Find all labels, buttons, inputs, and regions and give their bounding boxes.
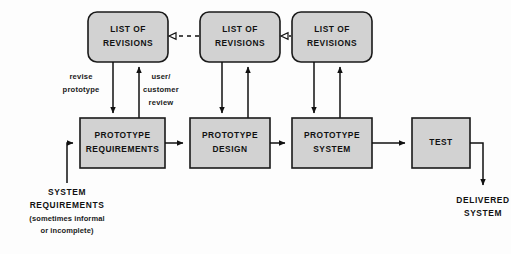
prototype-design-line2: DESIGN <box>212 144 247 154</box>
system-requirements-line4: or incomplete) <box>40 226 93 235</box>
node-prototype-design: PROTOTYPE DESIGN <box>190 118 270 168</box>
revisions-3-line2: REVISIONS <box>307 38 357 48</box>
annotation-delivered-system: DELIVERED SYSTEM <box>456 195 509 218</box>
arrow-delivered-system-output <box>470 143 483 185</box>
prototyping-flow-diagram: LIST OF REVISIONS LIST OF REVISIONS LIST… <box>0 0 511 254</box>
prototype-requirements-line1: PROTOTYPE <box>94 130 150 140</box>
revise-label-line2: prototype <box>63 85 100 94</box>
revisions-1-line2: REVISIONS <box>103 38 153 48</box>
diagram-canvas: LIST OF REVISIONS LIST OF REVISIONS LIST… <box>0 0 511 254</box>
annotation-system-requirements: SYSTEM REQUIREMENTS (sometimes informal … <box>29 187 104 235</box>
delivered-system-line1: DELIVERED <box>456 195 509 205</box>
review-label-line1: user/ <box>151 72 171 81</box>
system-requirements-line2: REQUIREMENTS <box>30 200 105 210</box>
node-revisions-3: LIST OF REVISIONS <box>292 12 372 62</box>
revise-label-line1: revise <box>69 72 92 81</box>
system-requirements-line1: SYSTEM <box>48 187 86 197</box>
dashed-arrow-revisions-3-to-2 <box>281 33 291 40</box>
edge-label-revise-prototype: revise prototype <box>63 72 100 94</box>
revisions-3-line1: LIST OF <box>314 24 350 34</box>
arrow-system-requirements-input <box>67 143 73 183</box>
delivered-system-line2: SYSTEM <box>464 208 502 218</box>
review-label-line2: customer <box>143 85 179 94</box>
system-requirements-line3: (sometimes informal <box>29 214 104 223</box>
prototype-requirements-line2: REQUIREMENTS <box>86 144 159 154</box>
prototype-system-line2: SYSTEM <box>313 144 350 154</box>
node-revisions-1: LIST OF REVISIONS <box>88 12 168 62</box>
node-revisions-2: LIST OF REVISIONS <box>200 12 280 62</box>
node-prototype-requirements: PROTOTYPE REQUIREMENTS <box>80 118 165 168</box>
node-test: TEST <box>412 118 470 168</box>
prototype-system-line1: PROTOTYPE <box>304 130 360 140</box>
revisions-2-line1: LIST OF <box>222 24 258 34</box>
node-prototype-system: PROTOTYPE SYSTEM <box>292 118 372 168</box>
edge-label-user-customer-review: user/ customer review <box>143 72 179 107</box>
prototype-design-line1: PROTOTYPE <box>202 130 258 140</box>
dashed-arrow-revisions-2-to-1 <box>169 33 199 40</box>
revisions-2-line2: REVISIONS <box>215 38 265 48</box>
test-line1: TEST <box>429 137 453 147</box>
revisions-1-line1: LIST OF <box>110 24 146 34</box>
review-label-line3: review <box>149 98 174 107</box>
